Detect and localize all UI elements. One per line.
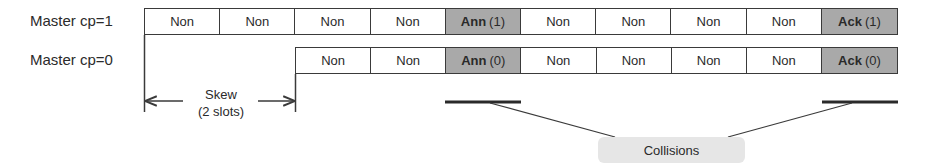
callout-leader-left bbox=[490, 103, 615, 137]
callout-leader-right bbox=[728, 103, 852, 137]
skew-label-detail: (2 slots) bbox=[184, 103, 258, 120]
collisions-callout: Collisions bbox=[598, 137, 745, 163]
skew-label: Skew (2 slots) bbox=[184, 86, 258, 120]
diagram-lines bbox=[0, 0, 935, 166]
skew-label-title: Skew bbox=[184, 86, 258, 103]
